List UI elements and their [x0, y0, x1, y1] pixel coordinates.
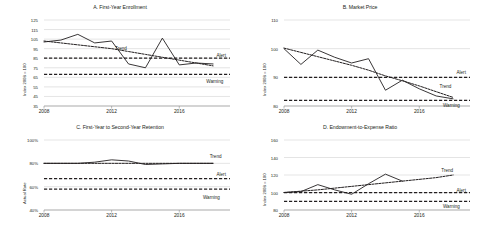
- panel-a-ytick-65: 65: [14, 75, 38, 80]
- panel-b-annotation-warning: Warning: [443, 103, 460, 108]
- panel-b-ytick-100: 100: [254, 46, 278, 51]
- panel-c-xtick-2016: 2016: [174, 213, 185, 218]
- panel-a-xtick-2008: 2008: [39, 109, 50, 114]
- panel-b-xtick-2012: 2012: [346, 109, 357, 114]
- panel-d-endowment-ratio: D. Endowment-to-Expense Ratio Index 2008…: [240, 124, 480, 235]
- panel-a-first-year-enrollment: A. First-Year Enrollment Index 2008 = 10…: [0, 4, 240, 119]
- panel-d-annotation-trend: Trend: [441, 167, 453, 172]
- panel-b-annotation-trend: Trend: [440, 83, 452, 88]
- panel-a-ytick-95: 95: [14, 46, 38, 51]
- panel-a-ytick-75: 75: [14, 65, 38, 70]
- panel-a-plot-area: [44, 20, 230, 106]
- panel-b-annotation-alert: Alert: [456, 69, 465, 74]
- panel-a-annotation-alert: Alert: [216, 53, 225, 58]
- panel-a-ytick-85: 85: [14, 56, 38, 61]
- panel-a-svg: [44, 20, 230, 106]
- panel-d-plot-area: [284, 140, 470, 210]
- panel-d-ytick-160: 160: [254, 138, 278, 143]
- panel-b-ytick-90: 90: [254, 75, 278, 80]
- panel-d-xtick-2008: 2008: [279, 213, 290, 218]
- series-actual-line: [284, 49, 453, 99]
- panel-c-annotation-warning: Warning: [203, 195, 220, 200]
- figure-canvas: A. First-Year Enrollment Index 2008 = 10…: [0, 0, 480, 235]
- panel-c-ytick-60: 60%: [14, 184, 38, 189]
- panel-a-xtick-2012: 2012: [106, 109, 117, 114]
- panel-b-ytick-80: 80: [254, 104, 278, 109]
- panel-b-plot-area: [284, 20, 470, 106]
- panel-b-ytick-110: 110: [254, 18, 278, 23]
- panel-a-ytick-105: 105: [14, 37, 38, 42]
- panel-c-title: C. First-Year to Second-Year Retention: [0, 124, 240, 130]
- panel-a-ytick-115: 115: [14, 27, 38, 32]
- panel-a-ytick-125: 125: [14, 18, 38, 23]
- panel-c-ytick-40: 40%: [14, 208, 38, 213]
- panel-c-xtick-2012: 2012: [106, 213, 117, 218]
- panel-a-ytick-35: 35: [14, 104, 38, 109]
- panel-b-title: B. Market Price: [240, 4, 480, 10]
- panel-d-ytick-120: 120: [254, 173, 278, 178]
- panel-b-svg: [284, 20, 470, 106]
- panel-c-xtick-2008: 2008: [39, 213, 50, 218]
- panel-d-svg: [284, 140, 470, 210]
- series-trend-line: [44, 41, 213, 66]
- panel-d-ytick-80: 80: [254, 208, 278, 213]
- panel-c-annotation-trend: Trend: [210, 154, 222, 159]
- panel-d-ytick-100: 100: [254, 190, 278, 195]
- panel-a-title: A. First-Year Enrollment: [0, 4, 240, 10]
- panel-d-ytick-140: 140: [254, 155, 278, 160]
- series-trend-line: [284, 48, 453, 97]
- panel-d-xtick-2016: 2016: [414, 213, 425, 218]
- panel-a-ytick-45: 45: [14, 94, 38, 99]
- panel-a-ytick-55: 55: [14, 84, 38, 89]
- panel-a-annotation-trend: Trend: [115, 45, 127, 50]
- panel-b-xtick-2016: 2016: [414, 109, 425, 114]
- panel-b-xtick-2008: 2008: [279, 109, 290, 114]
- panel-b-market-price: B. Market Price Index 2008 = 100 1101009…: [240, 4, 480, 119]
- panel-c-ytick-80: 80%: [14, 161, 38, 166]
- panel-c-annotation-alert: Alert: [216, 172, 225, 177]
- panel-d-annotation-alert: Alert: [456, 187, 465, 192]
- panel-a-xtick-2016: 2016: [174, 109, 185, 114]
- panel-d-annotation-warning: Warning: [443, 203, 460, 208]
- panel-d-xtick-2012: 2012: [346, 213, 357, 218]
- panel-c-retention: C. First-Year to Second-Year Retention A…: [0, 124, 240, 235]
- panel-a-annotation-warning: Warning: [206, 79, 223, 84]
- panel-d-title: D. Endowment-to-Expense Ratio: [240, 124, 480, 130]
- panel-c-ytick-100: 100%: [14, 138, 38, 143]
